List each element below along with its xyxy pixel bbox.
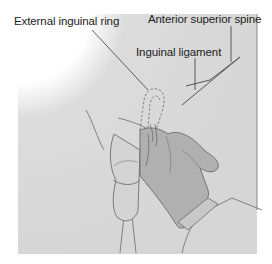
inguinal-exam-illustration: External inguinal ring Anterior superior… <box>0 0 272 264</box>
label-anterior-superior-spine: Anterior superior spine <box>148 13 261 25</box>
label-inguinal-ligament: Inguinal ligament <box>136 46 221 58</box>
scrotum-finger <box>110 134 140 221</box>
label-external-inguinal-ring: External inguinal ring <box>14 15 119 27</box>
illustration-drawing <box>0 0 272 264</box>
